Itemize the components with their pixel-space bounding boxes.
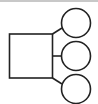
child-circle-node-3 xyxy=(62,75,91,104)
tree-diagram xyxy=(0,0,98,104)
edge-to-child-1 xyxy=(53,28,63,34)
child-circle-node-2 xyxy=(62,42,91,71)
edge-to-child-3 xyxy=(53,78,63,84)
child-circle-node-1 xyxy=(62,9,91,38)
parent-square-node xyxy=(10,34,53,78)
